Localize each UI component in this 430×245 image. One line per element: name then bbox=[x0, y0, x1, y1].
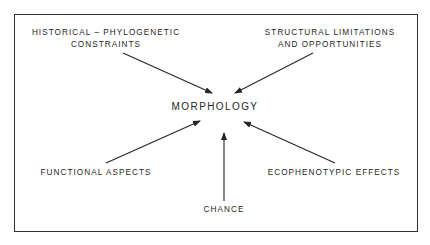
node-structural-line-1: STRUCTURAL LIMITATIONS bbox=[265, 27, 395, 39]
arrow-historical bbox=[123, 53, 212, 93]
arrow-functional bbox=[106, 121, 200, 163]
node-chance: CHANCE bbox=[204, 204, 245, 216]
node-chance-line-1: CHANCE bbox=[204, 204, 245, 216]
arrow-ecophenotypic bbox=[244, 122, 335, 163]
node-ecophenotypic: ECOPHENOTYPIC EFFECTS bbox=[268, 167, 401, 179]
node-functional-line-1: FUNCTIONAL ASPECTS bbox=[41, 167, 152, 179]
arrow-structural bbox=[235, 53, 313, 93]
node-functional: FUNCTIONAL ASPECTS bbox=[41, 167, 152, 179]
node-historical-line-1: HISTORICAL – PHYLOGENETIC bbox=[32, 27, 180, 39]
node-structural: STRUCTURAL LIMITATIONS AND OPPORTUNITIES bbox=[265, 27, 395, 51]
node-ecophenotypic-line-1: ECOPHENOTYPIC EFFECTS bbox=[268, 167, 401, 179]
node-morphology: MORPHOLOGY bbox=[172, 101, 259, 113]
node-structural-line-2: AND OPPORTUNITIES bbox=[265, 39, 395, 51]
node-historical: HISTORICAL – PHYLOGENETIC CONSTRAINTS bbox=[32, 27, 180, 51]
node-historical-line-2: CONSTRAINTS bbox=[32, 39, 180, 51]
